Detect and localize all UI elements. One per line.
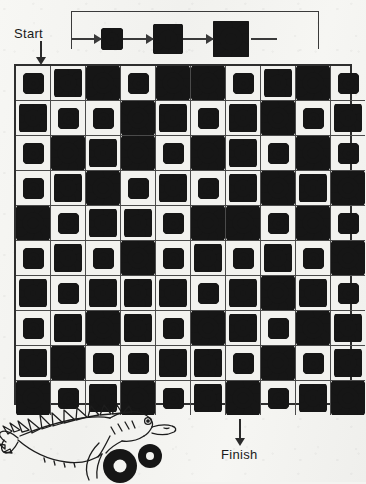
grid-cell[interactable] bbox=[191, 66, 226, 101]
grid-cell[interactable] bbox=[331, 276, 365, 311]
grid-cell[interactable] bbox=[51, 171, 86, 206]
grid-cell[interactable] bbox=[331, 241, 365, 276]
grid-cell[interactable] bbox=[86, 206, 121, 241]
grid-cell[interactable] bbox=[191, 101, 226, 136]
gear-grid[interactable] bbox=[14, 64, 352, 405]
grid-cell[interactable] bbox=[86, 276, 121, 311]
grid-cell[interactable] bbox=[261, 381, 296, 415]
grid-cell[interactable] bbox=[16, 311, 51, 346]
grid-cell[interactable] bbox=[191, 276, 226, 311]
grid-cell[interactable] bbox=[121, 101, 156, 136]
grid-cell[interactable] bbox=[16, 346, 51, 381]
small-gear bbox=[198, 283, 219, 304]
grid-cell[interactable] bbox=[261, 136, 296, 171]
small-gear bbox=[338, 73, 359, 94]
grid-cell[interactable] bbox=[121, 171, 156, 206]
grid-cell[interactable] bbox=[226, 206, 261, 241]
grid-cell[interactable] bbox=[191, 311, 226, 346]
grid-cell[interactable] bbox=[51, 276, 86, 311]
grid-cell[interactable] bbox=[156, 101, 191, 136]
grid-cell[interactable] bbox=[16, 206, 51, 241]
grid-cell[interactable] bbox=[86, 241, 121, 276]
grid-cell[interactable] bbox=[16, 66, 51, 101]
grid-cell[interactable] bbox=[191, 241, 226, 276]
grid-cell[interactable] bbox=[16, 101, 51, 136]
grid-cell[interactable] bbox=[16, 136, 51, 171]
grid-cell[interactable] bbox=[86, 66, 121, 101]
grid-cell[interactable] bbox=[296, 276, 331, 311]
grid-cell[interactable] bbox=[51, 66, 86, 101]
grid-cell[interactable] bbox=[156, 276, 191, 311]
grid-cell[interactable] bbox=[51, 241, 86, 276]
grid-cell[interactable] bbox=[156, 241, 191, 276]
grid-cell[interactable] bbox=[16, 241, 51, 276]
grid-cell[interactable] bbox=[16, 276, 51, 311]
grid-cell[interactable] bbox=[121, 346, 156, 381]
grid-cell[interactable] bbox=[261, 101, 296, 136]
grid-cell[interactable] bbox=[331, 206, 365, 241]
grid-cell[interactable] bbox=[156, 311, 191, 346]
grid-cell[interactable] bbox=[156, 171, 191, 206]
grid-cell[interactable] bbox=[51, 136, 86, 171]
grid-cell[interactable] bbox=[226, 311, 261, 346]
grid-cell[interactable] bbox=[86, 101, 121, 136]
grid-cell[interactable] bbox=[16, 171, 51, 206]
grid-cell[interactable] bbox=[156, 136, 191, 171]
grid-cell[interactable] bbox=[296, 66, 331, 101]
grid-cell[interactable] bbox=[296, 241, 331, 276]
grid-cell[interactable] bbox=[261, 276, 296, 311]
grid-cell[interactable] bbox=[331, 346, 365, 381]
grid-cell[interactable] bbox=[51, 101, 86, 136]
large-gear bbox=[191, 136, 225, 170]
grid-cell[interactable] bbox=[261, 311, 296, 346]
grid-cell[interactable] bbox=[261, 206, 296, 241]
grid-cell[interactable] bbox=[121, 276, 156, 311]
grid-cell[interactable] bbox=[86, 136, 121, 171]
grid-cell[interactable] bbox=[296, 171, 331, 206]
grid-cell[interactable] bbox=[86, 171, 121, 206]
grid-cell[interactable] bbox=[331, 101, 365, 136]
grid-cell[interactable] bbox=[226, 66, 261, 101]
grid-cell[interactable] bbox=[296, 311, 331, 346]
grid-cell[interactable] bbox=[121, 311, 156, 346]
grid-cell[interactable] bbox=[86, 346, 121, 381]
grid-cell[interactable] bbox=[296, 101, 331, 136]
grid-cell[interactable] bbox=[191, 346, 226, 381]
grid-cell[interactable] bbox=[226, 241, 261, 276]
grid-cell[interactable] bbox=[331, 136, 365, 171]
grid-cell[interactable] bbox=[331, 381, 365, 415]
grid-cell[interactable] bbox=[121, 66, 156, 101]
grid-cell[interactable] bbox=[156, 206, 191, 241]
grid-cell[interactable] bbox=[261, 346, 296, 381]
grid-cell[interactable] bbox=[226, 276, 261, 311]
grid-cell[interactable] bbox=[121, 136, 156, 171]
grid-cell[interactable] bbox=[51, 346, 86, 381]
grid-cell[interactable] bbox=[191, 206, 226, 241]
grid-cell[interactable] bbox=[226, 381, 261, 415]
large-gear bbox=[121, 241, 155, 275]
grid-cell[interactable] bbox=[51, 206, 86, 241]
grid-cell[interactable] bbox=[121, 241, 156, 276]
grid-cell[interactable] bbox=[191, 171, 226, 206]
grid-cell[interactable] bbox=[261, 66, 296, 101]
grid-cell[interactable] bbox=[226, 101, 261, 136]
grid-cell[interactable] bbox=[191, 136, 226, 171]
grid-cell[interactable] bbox=[156, 346, 191, 381]
grid-cell[interactable] bbox=[86, 311, 121, 346]
grid-cell[interactable] bbox=[296, 381, 331, 415]
grid-cell[interactable] bbox=[296, 206, 331, 241]
grid-cell[interactable] bbox=[331, 171, 365, 206]
grid-cell[interactable] bbox=[226, 171, 261, 206]
grid-cell[interactable] bbox=[226, 136, 261, 171]
grid-cell[interactable] bbox=[156, 66, 191, 101]
grid-cell[interactable] bbox=[331, 311, 365, 346]
grid-cell[interactable] bbox=[296, 346, 331, 381]
grid-cell[interactable] bbox=[261, 171, 296, 206]
grid-cell[interactable] bbox=[261, 241, 296, 276]
grid-cell[interactable] bbox=[331, 66, 365, 101]
grid-cell[interactable] bbox=[226, 346, 261, 381]
grid-cell[interactable] bbox=[121, 206, 156, 241]
large-gear bbox=[51, 136, 85, 170]
grid-cell[interactable] bbox=[51, 311, 86, 346]
grid-cell[interactable] bbox=[296, 136, 331, 171]
